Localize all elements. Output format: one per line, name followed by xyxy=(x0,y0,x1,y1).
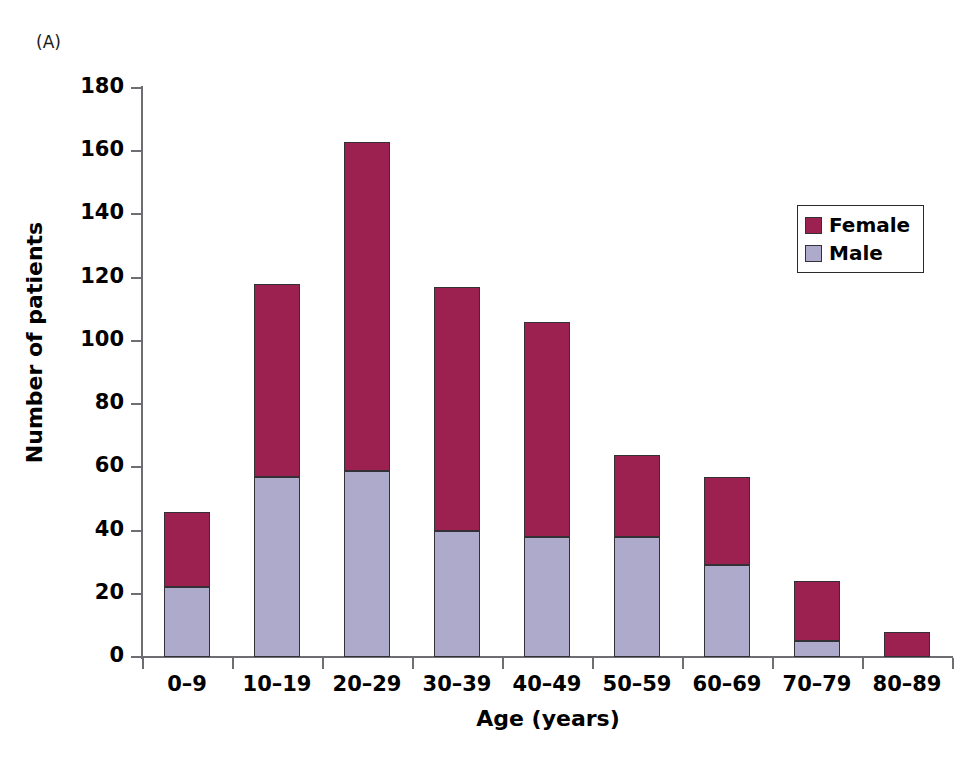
x-axis-tick-label: 0–9 xyxy=(142,672,232,696)
legend-item-label: Female xyxy=(829,215,910,235)
y-axis-tick-label: 40 xyxy=(52,517,124,541)
bar-segment-female xyxy=(254,284,300,477)
y-axis-tick xyxy=(131,656,142,658)
bar-stack xyxy=(884,88,930,657)
bar-segment-female xyxy=(434,287,480,530)
y-axis-tick xyxy=(131,87,142,89)
y-axis-tick xyxy=(131,213,142,215)
x-axis-tick-label: 30–39 xyxy=(412,672,502,696)
bar-stack xyxy=(524,88,570,657)
bar-segment-male xyxy=(164,587,210,657)
x-axis-tick-label: 10–19 xyxy=(232,672,322,696)
x-axis-tick-label: 70–79 xyxy=(772,672,862,696)
y-axis-tick-label: 160 xyxy=(52,137,124,161)
x-axis-tick xyxy=(592,658,594,669)
x-axis-tick-label: 40–49 xyxy=(502,672,592,696)
plot-area xyxy=(142,88,952,657)
bar-segment-female xyxy=(524,322,570,537)
bar-stack xyxy=(704,88,750,657)
legend-item: Male xyxy=(805,239,916,267)
x-axis-tick xyxy=(952,658,954,669)
y-axis-tick xyxy=(131,530,142,532)
y-axis-tick-label: 20 xyxy=(52,580,124,604)
bar-stack xyxy=(164,88,210,657)
bar-segment-female xyxy=(704,477,750,566)
legend: FemaleMale xyxy=(797,205,924,273)
y-axis-tick-label: 80 xyxy=(52,390,124,414)
bar-segment-female xyxy=(164,512,210,588)
x-axis-title: Age (years) xyxy=(142,706,954,731)
bar-segment-male xyxy=(254,477,300,657)
y-axis-tick xyxy=(131,466,142,468)
x-axis-tick-label: 50–59 xyxy=(592,672,682,696)
x-axis-tick xyxy=(232,658,234,669)
y-axis-tick-label: 120 xyxy=(52,264,124,288)
bar-segment-female xyxy=(794,581,840,641)
figure-panel-a: (A) 020406080100120140160180 Number of p… xyxy=(0,0,968,758)
x-axis-tick-label: 20–29 xyxy=(322,672,412,696)
y-axis-tick-label: 180 xyxy=(52,74,124,98)
bar-stack xyxy=(434,88,480,657)
bar-segment-male xyxy=(614,537,660,657)
y-axis-title: Number of patients xyxy=(22,113,47,573)
x-axis-tick xyxy=(322,658,324,669)
legend-item: Female xyxy=(805,211,916,239)
y-axis-tick-label: 100 xyxy=(52,327,124,351)
legend-swatch-icon xyxy=(805,217,822,234)
bar-stack xyxy=(614,88,660,657)
x-axis-tick-label: 60–69 xyxy=(682,672,772,696)
y-axis-tick xyxy=(131,403,142,405)
bar-segment-male xyxy=(794,641,840,657)
bar-stack xyxy=(254,88,300,657)
y-axis-tick xyxy=(131,340,142,342)
x-axis-tick xyxy=(412,658,414,669)
legend-item-label: Male xyxy=(829,243,883,263)
bar-stack xyxy=(794,88,840,657)
y-axis-tick xyxy=(131,150,142,152)
x-axis-tick xyxy=(502,658,504,669)
bar-segment-female xyxy=(884,632,930,657)
x-axis-tick xyxy=(682,658,684,669)
y-axis-tick-label: 140 xyxy=(52,200,124,224)
x-axis-tick xyxy=(862,658,864,669)
y-axis-tick xyxy=(131,277,142,279)
bar-segment-male xyxy=(524,537,570,657)
panel-label: (A) xyxy=(36,32,61,52)
x-axis-tick xyxy=(142,658,144,669)
y-axis-tick xyxy=(131,593,142,595)
bar-stack xyxy=(344,88,390,657)
bar-segment-male xyxy=(434,531,480,657)
bar-segment-male xyxy=(704,565,750,657)
x-axis-tick xyxy=(772,658,774,669)
legend-swatch-icon xyxy=(805,245,822,262)
y-axis-tick-label: 0 xyxy=(52,643,124,667)
bar-segment-male xyxy=(344,471,390,658)
bar-segment-female xyxy=(344,142,390,471)
bar-segment-female xyxy=(614,455,660,537)
y-axis-tick-label: 60 xyxy=(52,453,124,477)
x-axis-tick-label: 80–89 xyxy=(862,672,952,696)
